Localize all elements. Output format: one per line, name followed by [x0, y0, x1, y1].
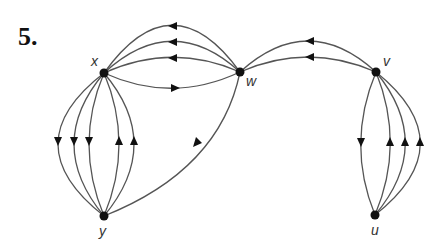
vertex-w: [236, 68, 245, 77]
arrow-up-icon: [386, 137, 394, 146]
arrow-up-icon: [130, 136, 138, 145]
edge-u-to-v-3: [375, 72, 420, 215]
arrow-down-icon: [54, 137, 62, 146]
arrow-left-icon: [168, 38, 177, 46]
edge-w-y-group: [104, 72, 240, 216]
vertex-label-w: w: [246, 73, 257, 89]
arrow-up-icon: [115, 136, 123, 145]
vertices: [100, 68, 381, 221]
vertex-label-x: x: [90, 53, 99, 69]
vertex-label-u: u: [371, 222, 379, 238]
edge-w-to-x-1: [104, 25, 240, 73]
edges-v-w: [240, 37, 376, 72]
problem-number: 5.: [18, 22, 38, 51]
arrow-down-left-icon: [193, 137, 202, 147]
edge-v-to-u: [361, 72, 376, 215]
edge-x-to-y-3: [89, 73, 104, 216]
arrow-left-icon: [305, 53, 314, 61]
graph-diagram: 5.: [0, 0, 445, 249]
edge-w-to-y: [104, 72, 240, 216]
arrow-left-icon: [305, 37, 314, 45]
arrow-up-icon: [401, 137, 409, 146]
arrow-left-icon: [168, 22, 177, 30]
edges-x-y: [54, 73, 138, 216]
arrow-down-icon: [85, 137, 93, 146]
arrow-down-icon: [70, 137, 78, 146]
edge-x-to-y-1: [58, 73, 104, 216]
vertex-label-y: y: [98, 223, 107, 239]
arrow-left-icon: [168, 54, 177, 62]
edge-v-to-w-2: [240, 57, 376, 72]
arrow-up-icon: [416, 137, 424, 146]
vertex-v: [372, 68, 381, 77]
arrow-down-icon: [357, 138, 365, 147]
edges-v-u: [357, 72, 424, 215]
vertex-y: [100, 212, 109, 221]
edges-x-w: [104, 22, 240, 92]
vertex-label-v: v: [383, 53, 391, 69]
arrow-right-icon: [171, 84, 180, 92]
vertex-x: [100, 69, 109, 78]
vertex-u: [371, 211, 380, 220]
